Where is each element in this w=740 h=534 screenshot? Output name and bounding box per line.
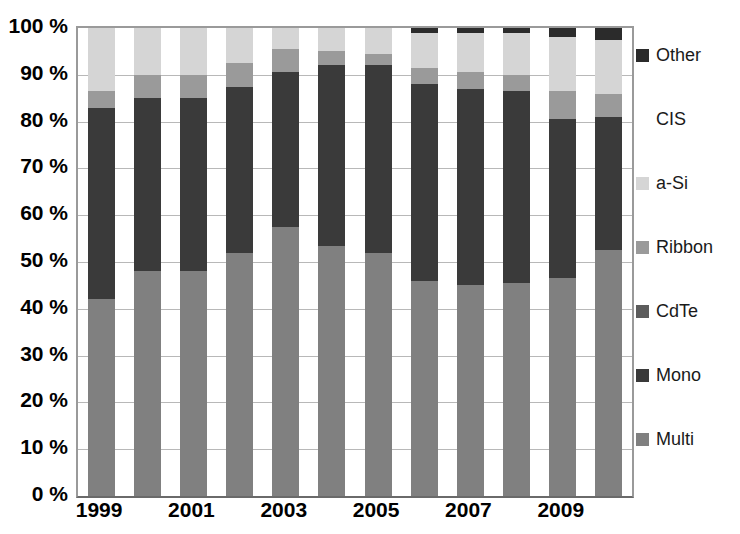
bar-segment-a-si <box>549 37 576 91</box>
chart-legend: OtherCISa-SiRibbonCdTeMonoMulti <box>636 26 740 494</box>
bar-segment-multi <box>503 283 530 496</box>
bar-segment-ribbon <box>411 68 438 84</box>
bar-segment-ribbon <box>457 72 484 88</box>
bar-segment-a-si <box>88 28 115 91</box>
bar-segment-other <box>411 28 438 33</box>
bar-segment-multi <box>272 227 299 496</box>
bar-segment-mono <box>457 89 484 286</box>
legend-label: CdTe <box>656 302 698 320</box>
bar-segment-mono <box>411 84 438 281</box>
bar-2001 <box>180 28 207 496</box>
legend-swatch-icon <box>636 305 649 318</box>
legend-swatch-icon <box>636 369 649 382</box>
bar-segment-a-si <box>180 28 207 75</box>
bar-segment-multi <box>549 278 576 496</box>
bar-segment-multi <box>226 253 253 496</box>
y-axis-tick-label: 20 % <box>20 389 68 410</box>
bar-segment-a-si <box>134 28 161 75</box>
bar-segment-mono <box>503 91 530 283</box>
legend-label: Other <box>656 46 701 64</box>
bar-2006 <box>411 28 438 496</box>
y-axis-tick-label: 90 % <box>20 62 68 83</box>
legend-swatch-icon <box>636 177 649 190</box>
x-axis-tick-label: 1999 <box>69 498 129 521</box>
bar-segment-mono <box>180 98 207 271</box>
y-axis-tick-label: 80 % <box>20 109 68 130</box>
bar-1999 <box>88 28 115 496</box>
bar-segment-other <box>457 28 484 33</box>
legend-label: CIS <box>656 110 686 128</box>
bar-segment-multi <box>88 299 115 496</box>
bar-2003 <box>272 28 299 496</box>
bar-segment-mono <box>272 72 299 226</box>
x-axis-tick-label: 2007 <box>438 498 498 521</box>
x-axis-tick-label: 2003 <box>254 498 314 521</box>
bar-segment-ribbon <box>226 63 253 86</box>
legend-item-a-si: a-Si <box>636 172 688 194</box>
y-axis-tick-label: 10 % <box>20 436 68 457</box>
legend-item-cis: CIS <box>636 108 686 130</box>
bar-segment-a-si <box>272 28 299 49</box>
bar-segment-multi <box>595 250 622 496</box>
bar-segment-ribbon <box>503 75 530 91</box>
bar-segment-ribbon <box>88 91 115 107</box>
legend-swatch-icon <box>636 241 649 254</box>
bar-segment-a-si <box>595 40 622 94</box>
y-axis: 0 %10 %20 %30 %40 %50 %60 %70 %80 %90 %1… <box>0 0 72 534</box>
bar-segment-a-si <box>365 28 392 54</box>
bar-segment-a-si <box>503 33 530 75</box>
y-axis-tick-label: 60 % <box>20 202 68 223</box>
bar-2004 <box>318 28 345 496</box>
bar-segment-multi <box>457 285 484 496</box>
legend-label: Multi <box>656 430 694 448</box>
y-axis-tick-label: 50 % <box>20 249 68 270</box>
bar-segment-mono <box>88 108 115 300</box>
bar-segment-ribbon <box>272 49 299 72</box>
bar-2000 <box>134 28 161 496</box>
bar-segment-multi <box>411 281 438 496</box>
x-axis: 199920012003200520072009 <box>76 498 630 532</box>
x-axis-tick-label: 2005 <box>346 498 406 521</box>
y-axis-tick-label: 30 % <box>20 343 68 364</box>
bar-segment-other <box>549 28 576 37</box>
legend-label: a-Si <box>656 174 688 192</box>
bar-segment-other <box>503 28 530 33</box>
bar-segment-mono <box>365 65 392 252</box>
y-axis-tick-label: 40 % <box>20 296 68 317</box>
bar-segment-a-si <box>457 33 484 73</box>
bar-segment-ribbon <box>180 75 207 98</box>
legend-label: Ribbon <box>656 238 713 256</box>
bar-segment-multi <box>134 271 161 496</box>
bar-segment-ribbon <box>595 94 622 117</box>
x-axis-tick-label: 2009 <box>531 498 591 521</box>
bar-segment-ribbon <box>549 91 576 119</box>
legend-item-cdte: CdTe <box>636 300 698 322</box>
bar-segment-ribbon <box>365 54 392 66</box>
y-axis-tick-label: 100 % <box>8 15 68 36</box>
y-axis-tick-label: 70 % <box>20 155 68 176</box>
bar-segment-mono <box>318 65 345 245</box>
bar-segment-a-si <box>318 28 345 51</box>
bar-2007 <box>457 28 484 496</box>
bar-segment-ribbon <box>134 75 161 98</box>
bar-segment-other <box>595 28 622 40</box>
bar-2005 <box>365 28 392 496</box>
bar-2002 <box>226 28 253 496</box>
bar-segment-mono <box>595 117 622 250</box>
bar-segment-multi <box>365 253 392 496</box>
legend-swatch-icon <box>636 433 649 446</box>
plot-area <box>76 26 634 498</box>
bar-2009 <box>549 28 576 496</box>
bar-2010 <box>595 28 622 496</box>
bar-segment-a-si <box>411 33 438 68</box>
bar-2008 <box>503 28 530 496</box>
bar-segment-mono <box>549 119 576 278</box>
legend-label: Mono <box>656 366 701 384</box>
y-axis-tick-label: 0 % <box>32 483 68 504</box>
legend-item-ribbon: Ribbon <box>636 236 713 258</box>
bar-segment-a-si <box>226 28 253 63</box>
bar-segment-multi <box>180 271 207 496</box>
bar-segment-multi <box>318 246 345 496</box>
bars-layer <box>78 28 632 496</box>
legend-item-mono: Mono <box>636 364 701 386</box>
